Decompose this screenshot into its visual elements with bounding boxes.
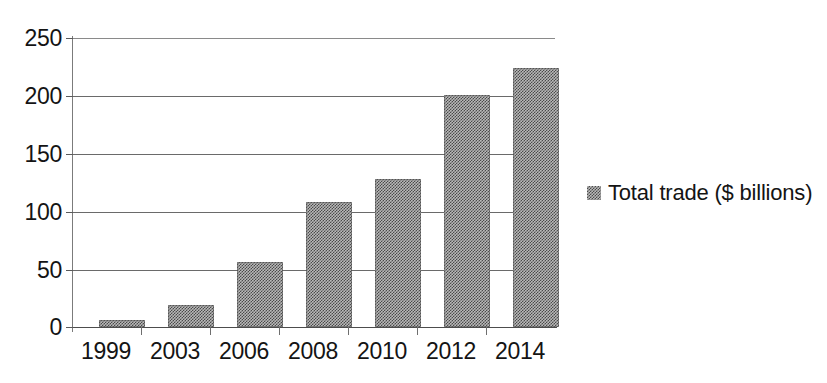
x-axis-label-2014: 2014 [487, 338, 553, 364]
x-axis-label-2012: 2012 [418, 338, 484, 364]
x-axis-label-2008: 2008 [280, 338, 346, 364]
x-tick-1 [141, 327, 142, 335]
y-axis-tick-label-50: 50 [37, 259, 62, 282]
y-axis-tick-label-0: 0 [50, 316, 63, 339]
bar-2010 [375, 179, 421, 327]
y-tick-50 [66, 270, 73, 271]
y-axis-labels: 250 200 150 100 50 0 [0, 0, 62, 383]
bar-2003 [168, 305, 214, 327]
legend-swatch-icon [587, 186, 601, 200]
bar-2012 [444, 95, 490, 327]
bar-chart: 250 200 150 100 50 0 1999 2003 2 [0, 0, 827, 383]
x-tick-3 [279, 327, 280, 335]
y-tick-150 [66, 154, 73, 155]
x-tick-5 [417, 327, 418, 335]
x-axis-label-2006: 2006 [211, 338, 277, 364]
bar-2014 [513, 68, 559, 327]
bar-2008 [306, 202, 352, 327]
y-tick-250 [66, 38, 73, 39]
x-tick-2 [210, 327, 211, 335]
y-axis-tick-label-100: 100 [25, 201, 62, 224]
y-axis-tick-label-250: 250 [25, 27, 62, 50]
bar-2006 [237, 262, 283, 327]
x-axis-line [70, 327, 557, 328]
x-axis-label-2010: 2010 [349, 338, 415, 364]
y-axis-tick-label-200: 200 [25, 85, 62, 108]
y-tick-200 [66, 96, 73, 97]
y-tick-100 [66, 212, 73, 213]
y-axis-tick-label-150: 150 [25, 143, 62, 166]
x-tick-4 [348, 327, 349, 335]
chart-legend: Total trade ($ billions) [587, 181, 812, 205]
y-tick-0 [66, 327, 73, 328]
bar-1999 [99, 320, 145, 327]
x-tick-6 [486, 327, 487, 335]
x-axis-label-2003: 2003 [142, 338, 208, 364]
legend-label-total-trade: Total trade ($ billions) [608, 181, 812, 205]
gridline-250 [72, 38, 555, 39]
x-axis-label-1999: 1999 [73, 338, 139, 364]
plot-area [72, 38, 555, 327]
